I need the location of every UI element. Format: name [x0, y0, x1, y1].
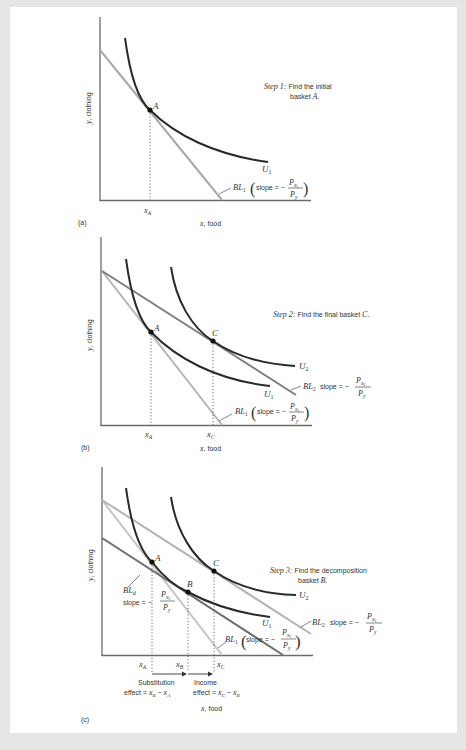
budget-line-bl1	[100, 50, 222, 200]
y-axis-label: y, clothing	[85, 319, 94, 352]
budget-line-bl1	[102, 271, 222, 425]
x-axis-label: x, food	[199, 444, 221, 453]
point-b-label: B	[187, 579, 193, 589]
bl1-slope-text: slope = −	[246, 636, 275, 644]
point-c	[210, 338, 215, 343]
panel-label-b: (b)	[81, 444, 90, 452]
panel-label-c: (c)	[81, 716, 89, 724]
step-2-text: Step 2:Find the final basket C.	[273, 310, 369, 319]
substitution-effect-formula: effect = xB − xA	[124, 688, 171, 698]
point-a	[149, 559, 154, 564]
panel-label-a: (a)	[78, 219, 87, 227]
point-a	[148, 329, 153, 334]
paren-left: (	[250, 180, 255, 198]
decomposition-figure: A U1 BL1 ( slope = − Px1 Py ) xA y, clot…	[0, 0, 466, 750]
bl1-slope-text: slope = −	[256, 184, 285, 192]
point-a-label: A	[154, 553, 161, 563]
panel-c: A B C U2 U1 BLd slope = − Px2 Py BL1 ( s…	[81, 467, 382, 724]
tick-xb: xB	[175, 659, 184, 670]
bl2-leader	[301, 621, 311, 627]
bl1-label: BL1	[235, 406, 248, 417]
bl1-slope-text: slope = −	[257, 408, 286, 416]
bl2-label: BL2	[312, 617, 325, 628]
tick-xa: xA	[143, 205, 152, 216]
bld-label: BLd	[123, 585, 136, 596]
bl2-leader	[291, 386, 301, 390]
point-c-label: C	[213, 558, 220, 568]
bl1-slope-numerator: Px1	[289, 402, 299, 413]
bld-slope-text: slope = −	[123, 599, 152, 607]
bl2-slope-numerator: Px2	[366, 612, 376, 623]
point-a-label: A	[152, 101, 159, 111]
tick-xa: xA	[144, 429, 153, 440]
panel-a: A U1 BL1 ( slope = − Px1 Py ) xA y, clot…	[78, 17, 332, 228]
tick-xc: xC	[206, 429, 215, 440]
bl1-leader	[219, 188, 231, 194]
income-effect-formula: effect = xC − xB	[193, 688, 240, 698]
u2-label: U2	[299, 590, 309, 601]
point-a-label: A	[153, 323, 160, 333]
u1-label: U1	[264, 389, 274, 400]
bl1-leader	[219, 414, 232, 421]
paren-right: )	[303, 180, 308, 198]
svg-text:): )	[304, 404, 309, 422]
bl2-slope-text: slope = −	[330, 619, 359, 627]
bl2-slope-text: slope = −	[320, 383, 349, 391]
y-axis-label: y, clothing	[84, 92, 93, 125]
svg-text:): )	[295, 632, 301, 651]
point-a	[147, 107, 152, 112]
bl1-slope-denominator: Py	[289, 190, 298, 200]
bl1-label: BL1	[225, 634, 238, 645]
u1-label: U1	[262, 164, 272, 175]
bl1-slope-numerator: Px1	[281, 628, 291, 639]
bl1-label: BL1	[233, 182, 246, 193]
point-c-label: C	[212, 328, 219, 338]
bl1-slope-denominator: Py	[290, 414, 299, 424]
y-axis-label: y, clothing	[86, 549, 95, 582]
income-effect-label: Income	[194, 679, 217, 686]
indifference-curve-u1	[125, 38, 268, 162]
bl2-label: BL2	[303, 381, 316, 392]
tick-xa: xA	[138, 659, 147, 670]
x-axis-label: x, food	[200, 704, 222, 713]
step-3-text-line2: basket B.	[298, 576, 327, 585]
bl1-slope-denominator: Py	[282, 641, 291, 651]
point-c	[211, 568, 216, 573]
bld-slope-numerator: Px2	[160, 590, 170, 601]
point-b	[185, 589, 190, 594]
bl2-slope-denominator: Py	[368, 625, 377, 635]
u2-label: U2	[299, 361, 309, 372]
step-1-text-line2: basket A.	[290, 92, 319, 101]
svg-text:(: (	[251, 404, 256, 422]
panel-b: A C U2 U1 BL2 slope = − Px2 Py BL1 ( slo…	[81, 237, 371, 453]
bld-slope-denominator: Py	[162, 603, 171, 613]
bl1-slope-numerator: Px1	[288, 178, 298, 189]
bl2-slope-numerator: Px2	[355, 376, 365, 387]
step-3-text: Step 3:Find the decomposition	[270, 566, 367, 575]
x-axis-label: x, food	[199, 219, 221, 228]
tick-xc: xC	[216, 659, 225, 670]
u1-label: U1	[262, 618, 272, 629]
indifference-curve-u1	[126, 488, 270, 617]
substitution-effect-label: Substitution	[138, 679, 175, 686]
indifference-curve-u1	[126, 259, 270, 386]
bl2-slope-denominator: Py	[357, 389, 366, 399]
step-1-text: Step 1:Find the initial	[264, 82, 332, 91]
